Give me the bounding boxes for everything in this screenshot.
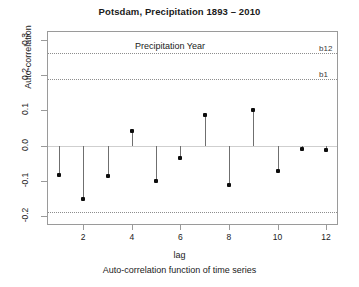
acf-point bbox=[324, 148, 328, 152]
x-tick-mark bbox=[132, 225, 133, 230]
confidence-line-label-b1: b1 bbox=[319, 70, 328, 79]
x-tick-label: 2 bbox=[71, 232, 95, 242]
acf-point bbox=[106, 174, 110, 178]
confidence-line-b1-lower bbox=[48, 212, 337, 213]
acf-stem bbox=[156, 146, 157, 181]
acf-point bbox=[178, 156, 182, 160]
acf-stem bbox=[108, 146, 109, 176]
y-tick-label: 0.1 bbox=[20, 96, 30, 122]
x-tick-label: 10 bbox=[266, 232, 290, 242]
y-tick-label: 0.0 bbox=[20, 132, 30, 158]
y-tick-label: 0.2 bbox=[20, 61, 30, 87]
acf-stem bbox=[132, 131, 133, 146]
precipitation-year-annotation: Precipitation Year bbox=[135, 41, 205, 51]
zero-reference-line bbox=[48, 146, 337, 147]
y-tick-label: 0.3 bbox=[20, 26, 30, 52]
x-tick-mark bbox=[326, 225, 327, 230]
y-tick-mark bbox=[41, 146, 47, 147]
x-axis-label: lag bbox=[0, 250, 359, 260]
confidence-line-b12 bbox=[48, 53, 337, 54]
x-tick-label: 6 bbox=[168, 232, 192, 242]
acf-stem bbox=[253, 110, 254, 146]
acf-stem bbox=[229, 146, 230, 186]
acf-point bbox=[130, 129, 134, 133]
acf-stem bbox=[278, 146, 279, 171]
x-tick-mark bbox=[180, 225, 181, 230]
confidence-line-b1 bbox=[48, 79, 337, 80]
acf-point bbox=[57, 173, 61, 177]
confidence-line-label-b12: b12 bbox=[319, 44, 332, 53]
acf-point bbox=[251, 108, 255, 112]
chart-subtitle: Auto-correlation function of time series bbox=[0, 265, 359, 275]
acf-point bbox=[300, 147, 304, 151]
acf-stem bbox=[59, 146, 60, 175]
y-tick-mark bbox=[41, 110, 47, 111]
x-tick-label: 8 bbox=[217, 232, 241, 242]
acf-point bbox=[154, 179, 158, 183]
plot-frame bbox=[47, 31, 338, 225]
acf-point bbox=[81, 197, 85, 201]
acf-point bbox=[227, 183, 231, 187]
y-tick-label: -0.2 bbox=[20, 202, 30, 228]
acf-point bbox=[276, 169, 280, 173]
x-tick-mark bbox=[229, 225, 230, 230]
x-tick-mark bbox=[278, 225, 279, 230]
y-tick-mark bbox=[41, 216, 47, 217]
x-tick-mark bbox=[83, 225, 84, 230]
y-tick-label: -0.1 bbox=[20, 167, 30, 193]
acf-chart: Potsdam, Precipitation 1893 – 2010 Auto-… bbox=[0, 0, 359, 287]
x-tick-label: 4 bbox=[120, 232, 144, 242]
acf-stem bbox=[205, 115, 206, 146]
y-tick-mark bbox=[41, 40, 47, 41]
acf-point bbox=[203, 113, 207, 117]
x-tick-label: 12 bbox=[314, 232, 338, 242]
y-tick-mark bbox=[41, 75, 47, 76]
acf-stem bbox=[83, 146, 84, 200]
chart-title: Potsdam, Precipitation 1893 – 2010 bbox=[0, 6, 359, 17]
y-tick-mark bbox=[41, 181, 47, 182]
